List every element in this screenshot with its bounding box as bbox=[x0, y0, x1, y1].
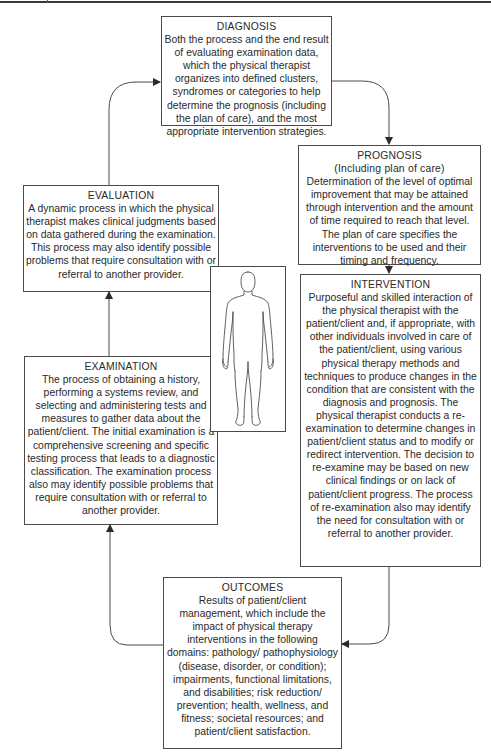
node-diagnosis-title: DIAGNOSIS bbox=[164, 20, 329, 33]
node-outcomes: OUTCOMES Results of patient/client manag… bbox=[163, 577, 342, 749]
node-outcomes-title: OUTCOMES bbox=[166, 581, 339, 594]
node-prognosis-title: PROGNOSIS bbox=[301, 149, 478, 162]
node-intervention-text: Purposeful and skilled interaction of th… bbox=[303, 291, 478, 540]
arrow-diagnosis-to-prognosis bbox=[331, 81, 389, 144]
node-diagnosis: DIAGNOSIS Both the process and the end r… bbox=[161, 16, 332, 126]
node-prognosis-text: Determination of the level of optimal im… bbox=[301, 175, 478, 267]
node-examination: EXAMINATION The process of obtaining a h… bbox=[24, 356, 218, 525]
node-intervention-title: INTERVENTION bbox=[303, 278, 478, 291]
node-evaluation-title: EVALUATION bbox=[26, 189, 216, 202]
human-body-icon bbox=[211, 267, 285, 431]
node-evaluation: EVALUATION A dynamic process in which th… bbox=[23, 185, 219, 292]
node-examination-text: The process of obtaining a history, perf… bbox=[27, 373, 215, 517]
node-intervention: INTERVENTION Purposeful and skilled inte… bbox=[300, 274, 481, 567]
node-diagnosis-text: Both the process and the end result of e… bbox=[164, 33, 329, 138]
node-examination-title: EXAMINATION bbox=[27, 360, 215, 373]
node-prognosis-subtitle: (Including plan of care) bbox=[301, 162, 478, 175]
node-prognosis: PROGNOSIS (Including plan of care) Deter… bbox=[298, 145, 481, 265]
arrow-outcomes-to-examination bbox=[110, 525, 163, 645]
arrow-evaluation-to-diagnosis bbox=[109, 82, 160, 185]
body-figure-frame bbox=[210, 266, 286, 432]
node-evaluation-text: A dynamic process in which the physical … bbox=[26, 202, 216, 281]
node-outcomes-text: Results of patient/client management, wh… bbox=[166, 594, 339, 738]
arrow-intervention-to-outcomes bbox=[342, 566, 389, 644]
